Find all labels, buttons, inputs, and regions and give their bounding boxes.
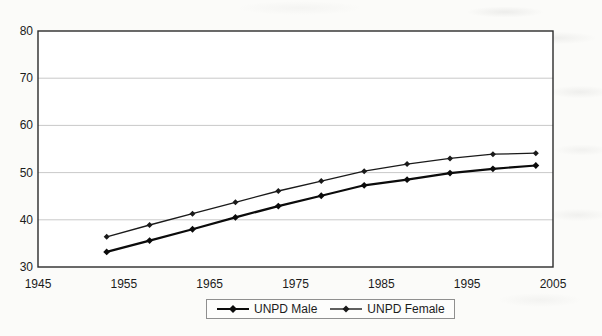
x-axis-tick-label-1955: 1955 <box>110 277 137 291</box>
legend-item-unpd-male: UNPD Male <box>216 302 317 316</box>
x-axis-tick-label-1975: 1975 <box>282 277 309 291</box>
x-axis-tick-label-1995: 1995 <box>454 277 481 291</box>
plot-area-background <box>38 31 553 267</box>
y-axis-tick-label-50: 50 <box>20 166 34 180</box>
y-axis-tick-label-30: 30 <box>20 260 34 274</box>
legend-label-unpd-female: UNPD Female <box>367 302 444 316</box>
y-axis-tick-label-70: 70 <box>20 71 34 85</box>
chart-legend: UNPD Male UNPD Female <box>206 299 455 319</box>
x-axis-tick-label-1945: 1945 <box>25 277 52 291</box>
female-line-marker-swatch <box>329 304 363 314</box>
x-axis-tick-label-1985: 1985 <box>368 277 395 291</box>
y-axis-tick-label-80: 80 <box>20 24 34 38</box>
y-axis-tick-label-40: 40 <box>20 213 34 227</box>
y-axis-tick-label-60: 60 <box>20 118 34 132</box>
male-line-marker-swatch <box>216 304 250 314</box>
scanned-book-page: 3040506070801945195519651975198519952005… <box>0 0 602 336</box>
legend-item-unpd-female: UNPD Female <box>329 302 444 316</box>
x-axis-tick-label-2005: 2005 <box>540 277 567 291</box>
x-axis-tick-label-1965: 1965 <box>196 277 223 291</box>
legend-label-unpd-male: UNPD Male <box>254 302 317 316</box>
life-expectancy-line-chart: 3040506070801945195519651975198519952005 <box>0 0 602 336</box>
